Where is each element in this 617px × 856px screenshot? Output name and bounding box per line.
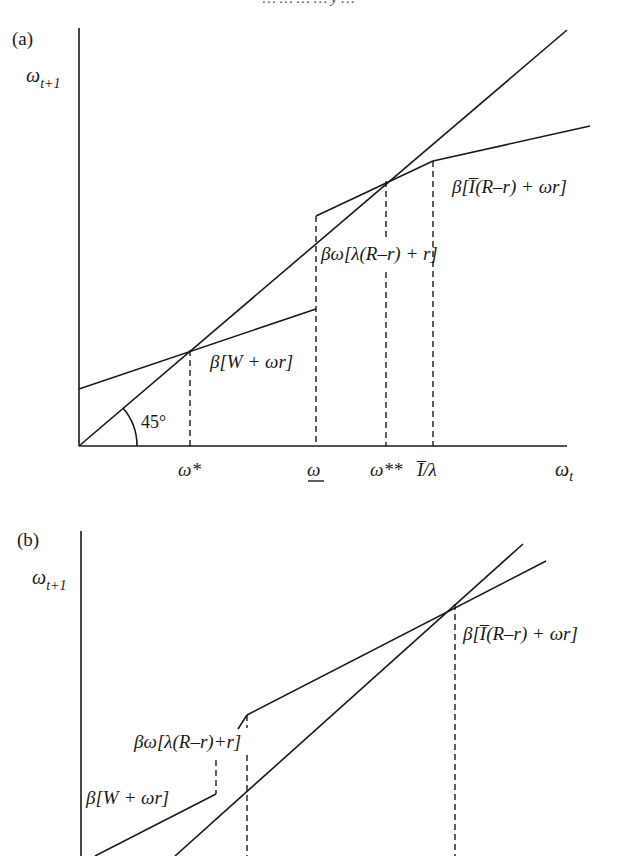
panel-a-45-degree-line <box>79 30 567 446</box>
panel-a-x-axis-label: ωt <box>555 458 574 484</box>
panel-a-tick-omega-double-star: ω** <box>370 459 403 480</box>
panel-b: (b) ωt+1 βω[λ(R–r)+r] β[W + ωr] β[I̅(R–r… <box>17 529 578 856</box>
panel-b-y-axis-label: ωt+1 <box>32 566 66 593</box>
panel-a-low-segment <box>79 309 316 389</box>
panel-a-tick-ibar-over-lambda: I̅/λ <box>416 459 437 480</box>
panel-a-low-segment-label: β[W + ωr] <box>209 351 293 372</box>
panel-a-angle-label: 45° <box>141 412 166 432</box>
panel-b-45-degree-line <box>175 544 523 856</box>
panel-a-mid-segment-label: βω[λ(R–r) + r] <box>320 243 438 265</box>
panel-b-high-segment-label: β[I̅(R–r) + ωr] <box>462 623 578 645</box>
panel-a-angle-arc <box>123 408 137 446</box>
panel-a-tick-omega-star: ω* <box>178 459 201 480</box>
panel-a-label: (a) <box>12 28 33 50</box>
panel-a-tick-omega-under: ω <box>307 459 320 480</box>
panel-a-mid-segment <box>316 161 433 216</box>
panel-a-y-axis-label: ωt+1 <box>26 64 60 91</box>
panel-a: (a) ωt+1 45° β[W + ωr] βω[λ(R–r) + r] β[… <box>12 28 590 484</box>
panel-b-low-segment-label: β[W + ωr] <box>85 787 169 808</box>
panel-a-high-segment <box>433 126 590 161</box>
panel-b-mid-segment-label: βω[λ(R–r)+r] <box>133 731 241 753</box>
panel-b-jump-notch <box>238 715 247 729</box>
panel-b-label: (b) <box>17 529 39 551</box>
panel-a-high-segment-label: β[I̅(R–r) + ωr] <box>451 176 567 198</box>
wealth-dynamics-diagram: (a) ωt+1 45° β[W + ωr] βω[λ(R–r) + r] β[… <box>0 0 617 856</box>
